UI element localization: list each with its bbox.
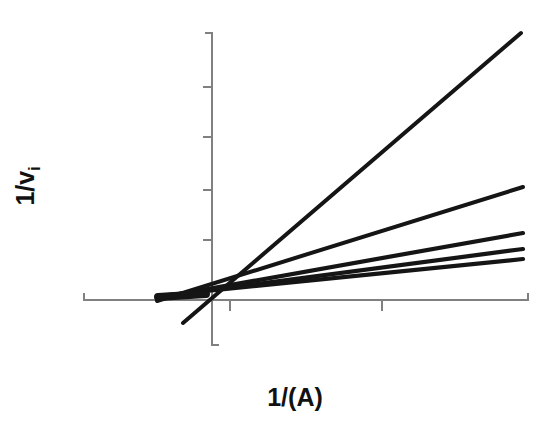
y-axis-label: 1/vi bbox=[11, 131, 44, 241]
convergence-point bbox=[158, 294, 206, 297]
x-axis-label: 1/(A) bbox=[205, 383, 385, 412]
x-axis bbox=[84, 293, 528, 300]
y-axis-ticks bbox=[203, 87, 212, 240]
x-axis-ticks bbox=[230, 300, 382, 311]
lineweaver-burk-figure: 1/vi 1/(A) bbox=[0, 0, 554, 434]
series-line-1 bbox=[183, 33, 521, 323]
plot-area bbox=[0, 0, 554, 434]
y-axis-label-subscript: i bbox=[26, 166, 43, 170]
y-axis-label-main: 1/v bbox=[11, 171, 39, 206]
